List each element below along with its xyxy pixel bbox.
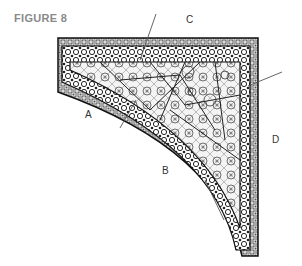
label-c: C: [186, 14, 193, 25]
label-a: A: [85, 109, 92, 120]
label-d: D: [272, 134, 279, 145]
label-b: B: [162, 165, 169, 176]
mosaic-spandrel-diagram: [0, 0, 302, 266]
